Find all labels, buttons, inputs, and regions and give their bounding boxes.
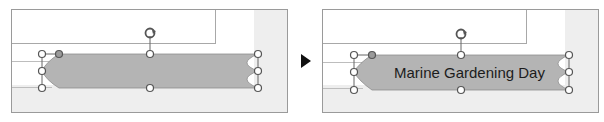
play-arrow-icon — [301, 54, 311, 68]
rotate-icon[interactable] — [457, 30, 468, 39]
adjust-handle[interactable] — [369, 52, 376, 59]
slide-preview-after: Marine Gardening Day — [322, 9, 599, 113]
shape-text[interactable]: Marine Gardening Day — [394, 64, 545, 81]
double-wave-shape[interactable] — [12, 10, 288, 113]
slide-preview-before — [11, 9, 288, 113]
rotate-icon[interactable] — [146, 29, 157, 38]
adjust-handle[interactable] — [56, 51, 63, 58]
double-wave-shape[interactable] — [323, 10, 599, 113]
